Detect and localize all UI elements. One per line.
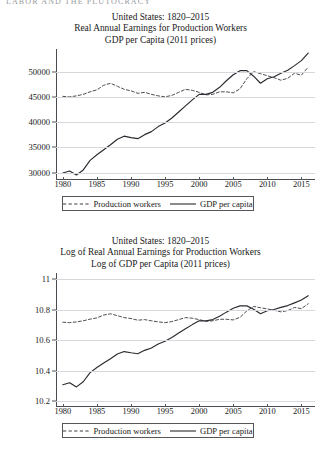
gridline — [56, 147, 315, 148]
series-line-production-workers — [63, 304, 308, 323]
figure-1-x-axis-labels: 19801985199019952000200520102015 — [56, 180, 315, 192]
y-axis-tick-label: 10.2 — [35, 396, 50, 406]
x-axis-tick-label: 2000 — [191, 180, 208, 189]
y-axis-tick-label: 50000 — [29, 67, 50, 77]
x-axis-tick-label: 2000 — [191, 407, 208, 416]
figure-real-earnings: United States: 1820–2015 Real Annual Ear… — [0, 12, 321, 212]
figure-2-plot-area: 10.210.410.610.811 — [0, 273, 321, 407]
x-axis-tick-label: 2015 — [293, 407, 310, 416]
x-axis-tick-label: 1990 — [123, 407, 140, 416]
figure-2-x-axis-labels: 19801985199019952000200520102015 — [56, 407, 315, 419]
x-axis-tick-label: 1995 — [157, 407, 174, 416]
dashed-line-swatch-icon — [63, 201, 89, 207]
x-axis-tick-label: 2005 — [225, 407, 242, 416]
gridline — [56, 97, 315, 98]
figure-2-axes — [56, 273, 315, 407]
x-axis-tick-label: 1985 — [89, 180, 106, 189]
figure-1-title-line-3: GDP per Capita (2011 prices) — [16, 35, 305, 46]
x-axis-tick-label: 1995 — [157, 180, 174, 189]
y-axis-tick-label: 30000 — [29, 168, 50, 178]
figure-1-legend-entry-gdp-per-capita: GDP per capita — [170, 199, 253, 209]
figure-2-title: United States: 1820–2015 Log of Real Ann… — [0, 236, 321, 270]
figure-1-legend-label-gdp-per-capita: GDP per capita — [200, 199, 253, 209]
dashed-line-swatch-icon — [63, 428, 89, 434]
figure-1-legend-label-production-workers: Production workers — [93, 199, 161, 209]
figure-2-legend-label-gdp-per-capita: GDP per capita — [200, 426, 253, 436]
x-axis-tick-label: 1980 — [54, 180, 71, 189]
figure-2-y-axis-labels: 10.210.410.610.811 — [0, 273, 56, 407]
figure-2-legend: Production workers GDP per capita — [62, 423, 254, 438]
x-axis-tick-label: 1980 — [54, 407, 71, 416]
gridline — [56, 173, 315, 174]
y-axis-tick-label: 10.6 — [35, 335, 50, 345]
gridline — [56, 310, 315, 311]
figure-1-legend: Production workers GDP per capita — [62, 196, 254, 211]
figure-1-title-line-1: United States: 1820–2015 — [16, 12, 305, 23]
figure-1-title: United States: 1820–2015 Real Annual Ear… — [0, 12, 321, 46]
solid-line-swatch-icon — [170, 428, 196, 434]
gridline — [56, 279, 315, 280]
figure-1-series-svg — [56, 49, 315, 180]
x-axis-tick-label: 2010 — [259, 407, 276, 416]
x-axis-tick-label: 2015 — [293, 180, 310, 189]
figure-2-legend-label-production-workers: Production workers — [93, 426, 161, 436]
y-axis-tick-label: 40000 — [29, 117, 50, 127]
gridline — [56, 72, 315, 73]
gridline — [56, 371, 315, 372]
x-axis-tick-label: 1985 — [89, 407, 106, 416]
y-axis-tick-label: 10.8 — [35, 305, 50, 315]
figure-1-legend-entry-production-workers: Production workers — [63, 199, 161, 209]
x-axis-tick-label: 1990 — [123, 180, 140, 189]
x-axis-tick-label: 2005 — [225, 180, 242, 189]
y-axis-tick-label: 10.4 — [35, 366, 50, 376]
figure-2-legend-entry-production-workers: Production workers — [63, 426, 161, 436]
figure-1-plot-area: 3000035000400004500050000 — [0, 49, 321, 180]
figure-log-real-earnings: United States: 1820–2015 Log of Real Ann… — [0, 236, 321, 439]
running-head: LABOR AND THE PLUTOCRACY — [6, 0, 236, 6]
gridline — [56, 340, 315, 341]
y-axis-tick-label: 35000 — [29, 142, 50, 152]
gridline — [56, 401, 315, 402]
figure-2-title-line-2: Log of Real Annual Earnings for Producti… — [16, 247, 305, 258]
y-axis-tick-label: 11 — [42, 274, 50, 284]
figure-1-axes — [56, 49, 315, 180]
figure-2-legend-entry-gdp-per-capita: GDP per capita — [170, 426, 253, 436]
x-axis-tick-label: 2010 — [259, 180, 276, 189]
figure-2-title-line-1: United States: 1820–2015 — [16, 236, 305, 247]
figure-2-title-line-3: Log of GDP per Capita (2011 prices) — [16, 259, 305, 270]
figure-1-y-axis-labels: 3000035000400004500050000 — [0, 49, 56, 180]
solid-line-swatch-icon — [170, 201, 196, 207]
figure-1-title-line-2: Real Annual Earnings for Production Work… — [16, 23, 305, 34]
y-axis-tick-label: 45000 — [29, 92, 50, 102]
gridline — [56, 122, 315, 123]
